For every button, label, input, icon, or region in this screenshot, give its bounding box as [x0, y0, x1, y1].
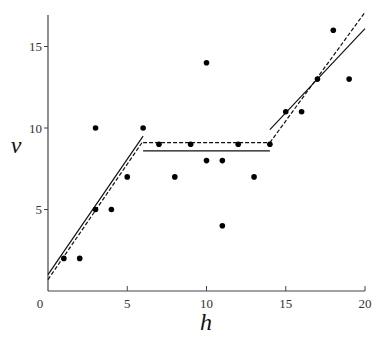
- y-tick-label: 5: [36, 202, 43, 217]
- data-point: [204, 60, 210, 66]
- solid-fit-segment: [48, 136, 143, 275]
- data-point: [77, 256, 83, 262]
- data-point: [172, 174, 178, 180]
- data-point: [331, 27, 337, 33]
- x-tick-label: 5: [124, 296, 131, 311]
- data-points: [61, 27, 352, 261]
- data-point: [93, 207, 99, 213]
- data-point: [299, 109, 305, 115]
- axes: 0510152051015: [29, 15, 372, 311]
- data-point: [156, 142, 162, 148]
- y-tick-label: 10: [29, 121, 42, 136]
- data-point: [346, 76, 352, 82]
- x-tick-label: 20: [359, 296, 372, 311]
- data-point: [315, 76, 321, 82]
- fit-lines: [48, 12, 365, 279]
- x-tick-label: 15: [279, 296, 292, 311]
- data-point: [124, 174, 130, 180]
- data-point: [188, 142, 194, 148]
- data-point: [140, 125, 146, 131]
- piecewise-regression-chart: 0510152051015 h v: [0, 0, 381, 338]
- data-point: [220, 158, 226, 164]
- data-point: [204, 158, 210, 164]
- data-point: [251, 174, 257, 180]
- x-axis-title: h: [200, 309, 212, 335]
- x-tick-label: 0: [37, 296, 44, 311]
- data-point: [235, 142, 241, 148]
- y-tick-label: 15: [29, 39, 42, 54]
- data-point: [220, 223, 226, 229]
- data-point: [61, 256, 67, 262]
- data-point: [109, 207, 115, 213]
- data-point: [93, 125, 99, 131]
- y-axis-title: v: [11, 132, 22, 158]
- data-point: [283, 109, 289, 115]
- data-point: [267, 142, 273, 148]
